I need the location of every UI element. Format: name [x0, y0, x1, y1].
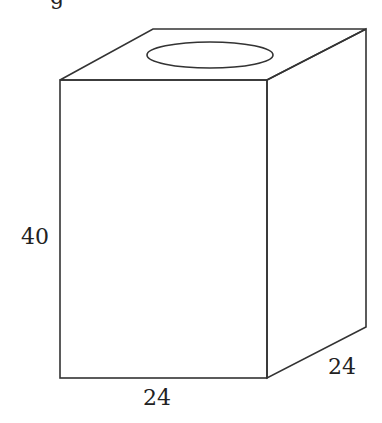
width-label: 24	[143, 385, 171, 410]
partial-caption-text: g	[50, 0, 64, 9]
depth-label: 24	[328, 354, 356, 379]
front-face	[60, 80, 267, 378]
circular-opening	[147, 42, 273, 68]
height-label: 40	[21, 224, 49, 249]
top-face	[60, 29, 366, 80]
right-face	[267, 29, 366, 378]
box-diagram: g 40 24 24	[0, 0, 382, 423]
